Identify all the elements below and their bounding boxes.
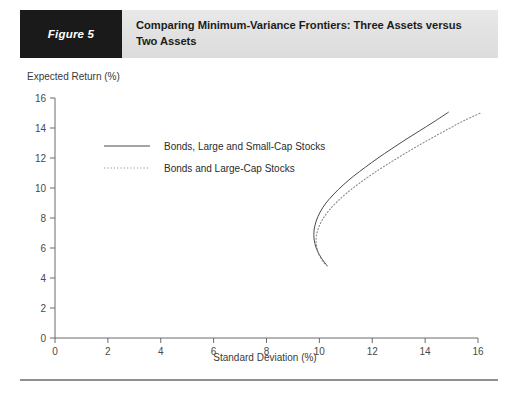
x-tick-label: 10 [314,346,326,357]
x-tick-label: 12 [367,346,379,357]
y-tick-label: 8 [40,213,46,224]
y-tick-label: 2 [40,303,46,314]
x-tick-label: 8 [264,346,270,357]
x-tick-label: 0 [52,346,58,357]
legend-label: Bonds and Large-Cap Stocks [164,163,295,174]
y-tick-label: 14 [35,123,47,134]
legend-label: Bonds, Large and Small-Cap Stocks [164,141,325,152]
x-tick-label: 4 [158,346,164,357]
x-tick-label: 16 [472,346,484,357]
y-tick-label: 10 [35,183,47,194]
x-tick-label: 2 [105,346,111,357]
y-tick-label: 16 [35,93,47,104]
data-series-group [314,112,481,266]
y-tick-label: 0 [40,333,46,344]
minimum-variance-frontier-chart: 0246810121416 0246810121416 Bonds, Large… [0,0,518,393]
frontier-curve-2 [316,113,481,264]
y-tick-label: 12 [35,153,47,164]
footer-divider [20,379,498,381]
y-tick-label: 4 [40,273,46,284]
y-axis-ticks: 0246810121416 [35,93,55,344]
x-tick-label: 6 [211,346,217,357]
y-tick-label: 6 [40,243,46,254]
x-tick-label: 14 [420,346,432,357]
x-axis-ticks: 0246810121416 [52,338,484,357]
chart-legend: Bonds, Large and Small-Cap StocksBonds a… [104,141,325,174]
frontier-curve-1 [314,112,449,266]
